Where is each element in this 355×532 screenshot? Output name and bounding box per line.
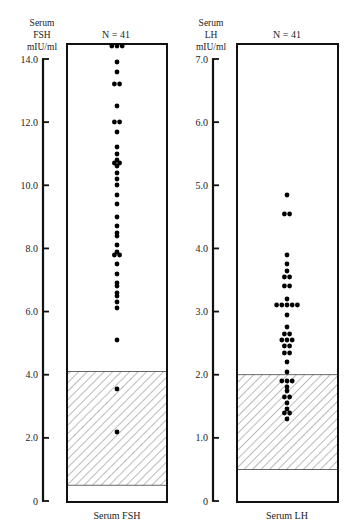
lh-tick-label: 4.0 [196, 243, 209, 254]
lh-y-axis: 01.02.03.04.05.06.07.0 [196, 54, 220, 507]
lh-ylabel-line2: LH [205, 30, 218, 40]
lh-data-point [290, 303, 295, 308]
fsh-data-point [117, 253, 122, 258]
fsh-tick-label: 2.0 [26, 432, 39, 443]
fsh-data-point [109, 44, 114, 49]
fsh-data-point [120, 44, 125, 49]
lh-data-point [285, 313, 290, 318]
lh-data-point [290, 379, 295, 384]
lh-data-point [287, 332, 292, 337]
lh-tick-label: 0 [203, 496, 208, 507]
fsh-data-point [115, 262, 120, 267]
fsh-tick-label: 8.0 [26, 243, 39, 254]
lh-data-point [285, 338, 290, 343]
lh-tick-label: 6.0 [196, 117, 209, 128]
lh-data-point [295, 303, 300, 308]
fsh-tick-label: 10.0 [21, 180, 39, 191]
lh-data-point [282, 344, 287, 349]
fsh-ylabel-line3: mIU/ml [27, 42, 57, 52]
fsh-data-point [115, 44, 120, 49]
lh-data-point [285, 325, 290, 330]
lh-data-point [287, 411, 292, 416]
lh-data-point [282, 332, 287, 337]
lh-tick-label: 7.0 [196, 54, 209, 65]
fsh-data-point [115, 338, 120, 343]
fsh-data-point [115, 130, 120, 135]
chart-figure: Serum FSH mIU/ml N = 41 02.04.06.08.010.… [0, 0, 355, 532]
lh-data-point [285, 297, 290, 302]
lh-data-point [285, 379, 290, 384]
fsh-data-point [115, 164, 120, 169]
lh-data-point [282, 351, 287, 356]
fsh-xlabel: Serum FSH [94, 510, 141, 521]
fsh-data-point [115, 306, 120, 311]
fsh-data-point [115, 152, 120, 157]
lh-data-point [282, 275, 287, 280]
fsh-data-point [115, 234, 120, 239]
fsh-data-point [115, 215, 120, 220]
fsh-data-point [115, 70, 120, 75]
lh-tick-label: 3.0 [196, 306, 209, 317]
fsh-tick-label: 6.0 [26, 306, 39, 317]
lh-tick-label: 1.0 [196, 432, 209, 443]
lh-data-point [285, 370, 290, 375]
fsh-data-point [115, 145, 120, 150]
lh-data-point [282, 212, 287, 217]
lh-data-point [285, 389, 290, 394]
fsh-data-point [115, 193, 120, 198]
lh-data-point [287, 212, 292, 217]
fsh-panel: Serum FSH mIU/ml N = 41 02.04.06.08.010.… [21, 18, 168, 521]
lh-data-point [287, 275, 292, 280]
fsh-data-point [115, 272, 120, 277]
lh-data-point [287, 284, 292, 289]
lh-data-point [290, 338, 295, 343]
fsh-tick-label: 0 [33, 496, 38, 507]
lh-n-label: N = 41 [273, 29, 301, 40]
lh-tick-label: 5.0 [196, 180, 209, 191]
lh-data-point [279, 303, 284, 308]
fsh-data-point [117, 82, 122, 87]
lh-data-point [287, 351, 292, 356]
lh-ylabel-line1: Serum [199, 18, 224, 28]
lh-data-point [285, 360, 290, 365]
fsh-data-point [115, 243, 120, 248]
lh-data-point [279, 338, 284, 343]
fsh-data-point [115, 224, 120, 229]
fsh-data-point [115, 171, 120, 176]
lh-data-point [285, 303, 290, 308]
lh-data-point [285, 269, 290, 274]
fsh-ylabel-line1: Serum [30, 18, 55, 28]
fsh-data-point [112, 120, 117, 125]
fsh-data-point [112, 253, 117, 258]
lh-data-point [282, 395, 287, 400]
lh-data-point [287, 395, 292, 400]
fsh-data-point [115, 104, 120, 109]
lh-xlabel: Serum LH [266, 510, 308, 521]
fsh-tick-label: 4.0 [26, 369, 39, 380]
lh-data-point [285, 401, 290, 406]
lh-ylabel-line3: mIU/ml [196, 42, 226, 52]
lh-panel: Serum LH mIU/ml N = 41 01.02.03.04.05.06… [196, 18, 339, 521]
fsh-tick-label: 14.0 [21, 54, 39, 65]
fsh-data-point [115, 60, 120, 65]
lh-data-point [282, 284, 287, 289]
lh-data-point [285, 193, 290, 198]
fsh-data-point [115, 430, 120, 435]
fsh-data-point [115, 284, 120, 289]
lh-data-point [279, 379, 284, 384]
lh-data-point [285, 417, 290, 422]
lh-data-point [282, 411, 287, 416]
lh-data-point [285, 262, 290, 267]
fsh-data-point [115, 387, 120, 392]
fsh-data-point [115, 202, 120, 207]
lh-data-point [274, 303, 279, 308]
lh-data-point [285, 407, 290, 412]
lh-tick-label: 2.0 [196, 369, 209, 380]
fsh-data-point [115, 300, 120, 305]
fsh-data-point [115, 183, 120, 188]
lh-data-point [285, 253, 290, 258]
fsh-n-label: N = 41 [102, 29, 130, 40]
fsh-data-point [115, 294, 120, 299]
fsh-tick-label: 12.0 [21, 117, 39, 128]
fsh-y-axis: 02.04.06.08.010.012.014.0 [21, 54, 50, 507]
